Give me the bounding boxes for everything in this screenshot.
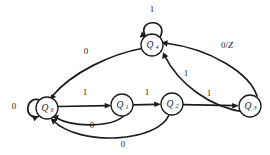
state-node-q3[interactable]: Q 3	[239, 95, 261, 117]
edge-path-q2-q3	[183, 105, 236, 106]
state-node-q1[interactable]: Q 1	[111, 94, 133, 116]
edge-label-q0-q1: 1	[83, 87, 88, 97]
state-label-q1: Q	[117, 100, 124, 110]
state-label-q3: Q	[245, 101, 252, 111]
arrowhead-q2-q3	[232, 103, 239, 109]
edge-path-q0-q1	[59, 106, 109, 107]
edge-label-q0-self: 0	[12, 101, 17, 111]
state-label-q0: Q	[42, 103, 49, 113]
edge-path-q4-q0	[52, 49, 142, 97]
edge-label-q4-self: 1	[150, 4, 155, 14]
state-subscript-q2: 2	[176, 102, 179, 109]
transition-q2-to-q3	[183, 103, 239, 109]
transition-q4-to-q0	[50, 49, 142, 100]
edge-label-q2-q3: 1	[207, 88, 212, 98]
state-diagram-canvas: Q 0 Q 1 Q 2 Q 3 Q 4 0 1 1 1 1 0	[0, 0, 270, 155]
state-subscript-q4: 4	[156, 43, 159, 50]
edge-label-q3-q4-text: 0/Z	[221, 40, 234, 50]
transition-q2-to-q0	[51, 115, 170, 138]
edge-label-output-symbol: Z	[228, 40, 234, 50]
state-label-q2: Q	[167, 99, 174, 109]
transition-q1-to-q2	[133, 102, 161, 108]
edge-path-q1-q2	[133, 104, 158, 105]
state-label-q4: Q	[147, 40, 154, 50]
transition-q1-to-q0	[52, 115, 123, 125]
state-subscript-q1: 1	[126, 103, 129, 110]
edge-label-q2-q0: 0	[121, 139, 126, 149]
state-node-q2[interactable]: Q 2	[161, 93, 183, 115]
edge-label-q1-q0: 0	[90, 120, 95, 130]
state-node-q0[interactable]: Q 0	[36, 97, 58, 119]
edge-label-q4-q0: 0	[84, 46, 89, 56]
edge-label-q1-q2: 1	[145, 87, 150, 97]
state-node-q4[interactable]: Q 4	[141, 34, 163, 56]
state-subscript-q3: 3	[253, 104, 257, 111]
edge-label-q3-q4: 0/Z	[221, 40, 234, 50]
edge-path-q2-q0	[53, 115, 169, 138]
arrowhead-q1-q2	[154, 102, 161, 108]
transition-q0-to-q1	[59, 103, 112, 109]
state-diagram-container: Q 0 Q 1 Q 2 Q 3 Q 4 0 1 1 1 1 0	[0, 0, 270, 155]
edge-label-q2-q4: 1	[184, 68, 189, 78]
